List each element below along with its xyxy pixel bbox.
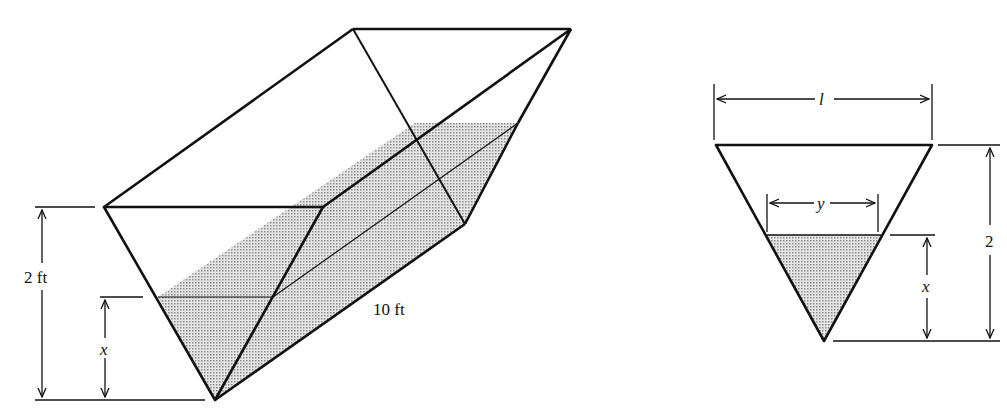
water-depth-label: x — [99, 340, 108, 359]
length-label: 10 ft — [373, 300, 405, 319]
water-cross-section — [767, 235, 881, 341]
height-label: 2 ft — [24, 268, 47, 287]
top-width-label: l — [819, 90, 824, 109]
height-label-right: 2 — [985, 232, 994, 251]
water-depth-label-right: x — [921, 277, 930, 296]
water-width-label: y — [815, 194, 825, 213]
trough-diagram: 2 ft x 10 ft l — [0, 0, 1007, 417]
cross-section: l y x 2 — [714, 84, 1000, 341]
trough-3d: 2 ft x 10 ft — [24, 29, 571, 400]
water-volume — [158, 123, 518, 400]
dimension-lines-right — [714, 84, 1000, 341]
